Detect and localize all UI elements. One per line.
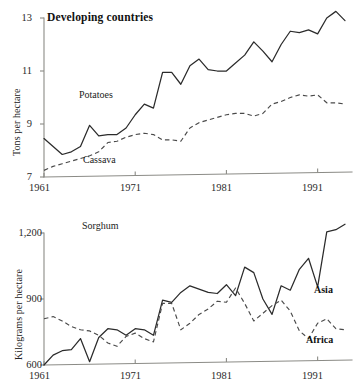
x-tick-label-bottom-2: 1981 — [211, 371, 232, 382]
y-axis-title-bottom: Kilograms per hectare — [14, 269, 24, 360]
series-line-asia — [44, 224, 345, 365]
panel-title-top: Developing countries — [47, 12, 153, 24]
series-line-africa — [44, 288, 345, 346]
series-label-asia: Asia — [314, 285, 333, 295]
chart-plot-top — [0, 0, 355, 195]
x-tick-label-top-0: 1961 — [29, 183, 50, 194]
axis-ticks-bottom — [40, 233, 318, 365]
y-tick-label-top-0: 13 — [10, 13, 32, 24]
panel-title-bottom: Sorghum — [82, 221, 119, 231]
y-tick-label-top-1: 11 — [10, 66, 32, 77]
y-tick-label-top-3: 7 — [10, 172, 32, 183]
chart-plot-bottom — [0, 195, 355, 389]
y-tick-label-bottom-1: 900 — [1, 294, 42, 305]
x-axis-line-top — [44, 172, 352, 177]
chart-panel-sorghum: Sorghum Kilograms per hectare 1,200 900 … — [0, 195, 355, 389]
chart-panel-developing-countries: Developing countries Tons per hectare 13… — [0, 0, 355, 195]
series-label-africa: Africa — [306, 335, 333, 345]
x-tick-label-top-2: 1981 — [211, 183, 232, 194]
two-panel-line-chart-figure: Developing countries Tons per hectare 13… — [0, 0, 355, 389]
y-tick-label-top-2: 9 — [10, 119, 32, 130]
series-line-potatoes — [44, 11, 345, 154]
series-label-cassava: Cassava — [83, 155, 116, 165]
x-tick-label-bottom-3: 1991 — [302, 371, 323, 382]
x-tick-label-bottom-0: 1961 — [29, 371, 50, 382]
series-label-potatoes: Potatoes — [79, 90, 113, 100]
y-tick-label-bottom-0: 1,200 — [1, 228, 42, 239]
x-tick-label-top-1: 1971 — [120, 183, 141, 194]
x-tick-label-bottom-1: 1971 — [120, 371, 141, 382]
x-tick-label-top-3: 1991 — [302, 183, 323, 194]
y-tick-label-bottom-2: 600 — [1, 360, 42, 371]
axes-bottom — [40, 233, 352, 365]
